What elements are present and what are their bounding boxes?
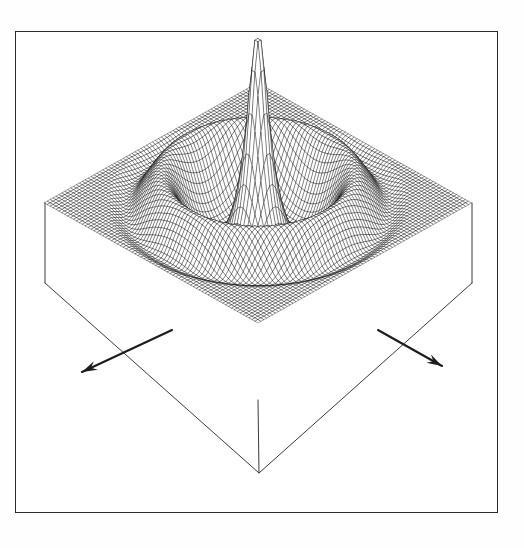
axis-label-y [0, 0, 1, 1]
axis-arrow-right-label [0, 0, 1, 1]
figure-root: 3D wireframe mesh surface plot radially … [0, 0, 524, 548]
surface-function-label: radially symmetric oscillating decay wit… [0, 0, 1, 1]
plot-frame [15, 31, 498, 513]
figure-title: 3D wireframe mesh surface plot [0, 0, 1, 1]
axis-label-z [0, 0, 1, 1]
axis-label-x [0, 0, 1, 1]
axis-arrow-left-label [0, 0, 1, 1]
